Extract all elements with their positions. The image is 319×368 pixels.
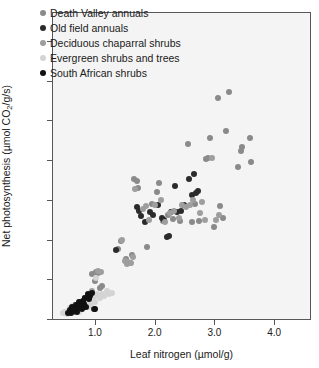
data-point (156, 180, 162, 186)
legend-marker-icon (40, 40, 46, 46)
legend-marker-icon (40, 70, 46, 76)
data-point (211, 224, 217, 230)
data-point (138, 213, 144, 219)
x-axis-tick (274, 319, 275, 325)
legend-item-label: Death Valley annuals (50, 8, 148, 19)
data-point (216, 212, 222, 218)
data-point (191, 171, 197, 177)
data-point (162, 219, 168, 225)
data-point (113, 247, 119, 253)
data-point (132, 186, 138, 192)
x-axis-tick (155, 319, 156, 325)
data-point (143, 203, 149, 209)
legend-item[interactable]: Evergreen shrubs and trees (40, 51, 181, 65)
data-point (130, 254, 136, 260)
y-axis-tick (47, 200, 53, 201)
y-axis-tick (47, 319, 53, 320)
data-point (134, 178, 140, 184)
legend-item-label: South African shrubs (50, 68, 147, 79)
y-axis-title: Net photosynthesis (µmol CO2/g/s) (0, 12, 14, 320)
legend-marker-icon (40, 25, 46, 31)
y-axis-tick (47, 81, 53, 82)
legend-item[interactable]: Death Valley annuals (40, 6, 181, 20)
legend-item-label: Deciduous chaparral shrubs (50, 38, 181, 49)
legend-item[interactable]: South African shrubs (40, 66, 181, 80)
data-point (186, 176, 192, 182)
data-point (197, 210, 203, 216)
data-point (189, 219, 195, 225)
data-point (190, 197, 196, 203)
data-point (199, 199, 205, 205)
data-point (166, 233, 172, 239)
legend-item[interactable]: Deciduous chaparral shrubs (40, 36, 181, 50)
data-point (235, 164, 241, 170)
y-axis-tick (47, 279, 53, 280)
data-point (150, 212, 156, 218)
data-point (209, 155, 215, 161)
data-point (248, 159, 254, 165)
data-point (83, 304, 89, 310)
y-axis-tick (47, 120, 53, 121)
data-point (158, 197, 164, 203)
data-point (215, 95, 221, 101)
data-point (152, 202, 158, 208)
chart-legend: Death Valley annualsOld field annualsDec… (40, 6, 181, 80)
data-point (226, 89, 232, 95)
y-axis-tick (47, 240, 53, 241)
data-point (92, 306, 98, 312)
data-point (239, 144, 245, 150)
legend-item-label: Evergreen shrubs and trees (50, 53, 180, 64)
x-axis-tick-label: 3.0 (207, 327, 221, 338)
data-point (144, 244, 150, 250)
data-point (176, 215, 182, 221)
data-point (202, 217, 208, 223)
data-point (247, 135, 253, 141)
data-point (109, 290, 115, 296)
x-axis-tick-label: 1.0 (88, 327, 102, 338)
data-point (195, 188, 201, 194)
data-point (98, 269, 104, 275)
scatter-plot-figure: 0100200300400500600700 1.02.03.04.0 Net … (0, 0, 319, 368)
x-axis-tick-label: 2.0 (148, 327, 162, 338)
data-point (207, 135, 213, 141)
data-point (171, 208, 177, 214)
legend-marker-icon (40, 10, 46, 16)
legend-item[interactable]: Old field annuals (40, 21, 181, 35)
legend-item-label: Old field annuals (50, 23, 128, 34)
data-point (172, 183, 178, 189)
data-point (223, 128, 229, 134)
x-axis-title: Leaf nitrogen (µmol/g) (52, 348, 311, 360)
data-point (154, 189, 160, 195)
x-axis-tick (95, 319, 96, 325)
y-axis-title-prefix: Net photosynthesis (µmol CO (0, 110, 12, 247)
y-axis-title-suffix: /g/s) (0, 85, 12, 105)
data-point (119, 237, 125, 243)
data-point (93, 275, 99, 281)
data-point (89, 290, 95, 296)
y-axis-tick (47, 160, 53, 161)
data-point (217, 203, 223, 209)
data-point (185, 141, 191, 147)
x-axis-tick-label: 4.0 (267, 327, 281, 338)
x-axis-tick (214, 319, 215, 325)
data-point (146, 217, 152, 223)
legend-marker-icon (40, 55, 46, 61)
y-axis-title-subscript: 2 (5, 105, 14, 109)
data-point (128, 260, 134, 266)
